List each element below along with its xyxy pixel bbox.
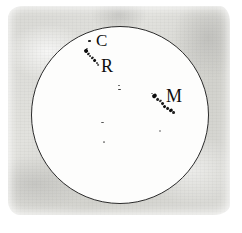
sunspot-mark — [88, 39, 91, 41]
sunspot-mark — [101, 122, 104, 124]
sunspot-mark — [171, 110, 175, 113]
solar-disk — [31, 26, 209, 204]
label-r: R — [101, 57, 113, 75]
label-c: C — [96, 32, 107, 49]
sunspot-drawing-page: CRM — [0, 0, 242, 233]
sunspot-mark — [151, 93, 153, 95]
label-m: M — [166, 87, 182, 105]
sunspot-mark — [118, 89, 121, 91]
